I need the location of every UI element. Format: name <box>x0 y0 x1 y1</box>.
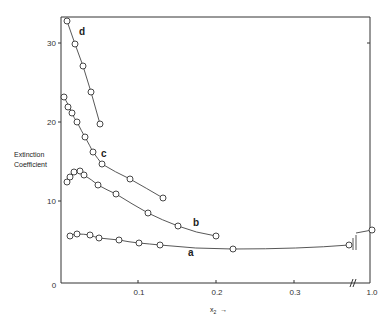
series-lines <box>64 21 372 250</box>
y-axis-title-line1: Extinction <box>14 151 44 158</box>
series-a-line <box>70 234 349 249</box>
series-c-line <box>64 97 163 198</box>
origin-label: 0 <box>52 281 57 290</box>
x-tick-0.1: 0.1 <box>133 288 145 297</box>
series-b-markers <box>64 168 219 239</box>
x-tick-0.2: 0.2 <box>211 288 223 297</box>
x-axis-subscript: 2 <box>214 309 217 315</box>
series-label-d: d <box>79 26 85 37</box>
x-axis-title: x2→ <box>210 306 227 315</box>
y-ticks <box>58 43 370 201</box>
series-a-break-connector <box>353 230 372 250</box>
series-label-b: b <box>193 217 199 228</box>
x-tick-0.3: 0.3 <box>289 288 301 297</box>
chart: 10 20 30 0 0.1 0.2 0.3 1.0 Extinction Co… <box>0 0 390 322</box>
y-tick-20: 20 <box>47 118 56 127</box>
series-label-c: c <box>101 148 107 159</box>
series-label-a: a <box>188 247 194 258</box>
x-tick-1.0: 1.0 <box>366 288 378 297</box>
series-markers <box>61 18 375 252</box>
y-tick-10: 10 <box>47 197 56 206</box>
series-c-markers <box>61 94 166 201</box>
x-axis-arrow: → <box>220 306 227 313</box>
y-axis-title-line2: Coefficient <box>14 161 47 168</box>
y-tick-30: 30 <box>47 39 56 48</box>
plot-frame <box>61 17 370 283</box>
